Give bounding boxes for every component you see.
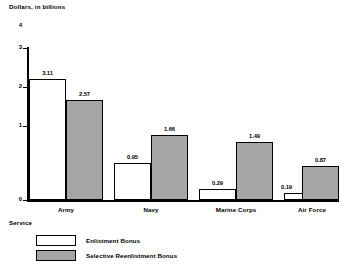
bar-label-airforce-enlistment: 0.19 [268,184,305,190]
bar-navy-enlistment[interactable] [114,163,151,200]
y-axis-title: Dollars, in billions [9,3,65,10]
bar-label-marine-enlistment: 0.29 [199,180,236,186]
bar-label-airforce-reenlistment: 0.87 [302,157,339,163]
bar-navy-reenlistment[interactable] [151,135,188,200]
y-tick-label-4: 4 [6,22,22,28]
bar-label-marine-reenlistment: 1.49 [236,133,273,139]
x-category-label-air-force: Air Force [284,206,340,213]
bar-chart: Dollars, in billions 4 3 2 1 0 3.11 2.57… [0,0,346,269]
bar-marine-reenlistment[interactable] [236,142,273,200]
x-axis-title: Service [9,219,32,226]
x-axis-line [27,200,339,202]
legend-label-enlistment-bonus: Enlistment Bonus [86,237,140,244]
y-tick-label-1: 1 [6,122,22,128]
y-tick-label-2: 2 [6,83,22,89]
x-category-label-army: Army [29,206,103,213]
bar-label-navy-reenlistment: 1.66 [151,126,188,132]
legend-label-selective-reenlistment-bonus: Selective Reenlistment Bonus [86,252,177,259]
bar-label-army-enlistment: 3.11 [29,70,66,76]
legend-swatch-selective-reenlistment-bonus [36,250,76,261]
bar-label-army-reenlistment: 2.57 [66,91,103,97]
y-tick-label-0: 0 [6,196,22,202]
legend-swatch-enlistment-bonus [36,235,76,246]
bar-airforce-reenlistment[interactable] [302,166,339,200]
bar-army-reenlistment[interactable] [66,100,103,200]
x-category-label-marine-corps: Marine Corps [199,206,273,213]
bar-label-navy-enlistment: 0.95 [114,154,151,160]
x-category-label-navy: Navy [114,206,188,213]
bar-army-enlistment[interactable] [29,79,66,200]
bar-marine-enlistment[interactable] [199,189,236,200]
y-tick-label-3: 3 [6,44,22,50]
